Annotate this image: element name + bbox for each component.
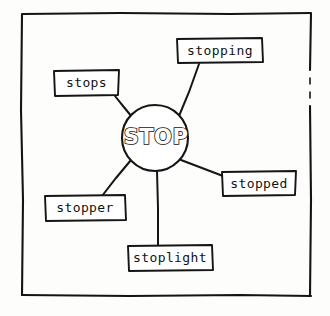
- node-label-stoplight: stoplight: [128, 251, 212, 264]
- page-border-left: [21, 14, 23, 295]
- page-border-top: [23, 13, 310, 14]
- page-border-right-lower: [310, 106, 311, 296]
- diagram-sketch-layer: [0, 0, 330, 316]
- connector-stopping: [179, 64, 199, 116]
- node-label-stops: stops: [54, 76, 119, 89]
- node-label-stopped: stopped: [222, 177, 296, 190]
- node-label-stopping: stopping: [177, 44, 263, 57]
- center-node-label: STOP: [123, 127, 189, 148]
- connector-stops: [115, 96, 132, 117]
- connector-stoplight: [157, 171, 158, 246]
- connector-stopper: [102, 160, 131, 196]
- page-border-right-upper: [310, 13, 311, 70]
- node-label-stopper: stopper: [45, 201, 125, 214]
- page-border-bottom: [22, 295, 311, 296]
- diagram-canvas: STOP stopping stops stopped stopper stop…: [0, 0, 330, 316]
- connector-stopped: [181, 160, 223, 176]
